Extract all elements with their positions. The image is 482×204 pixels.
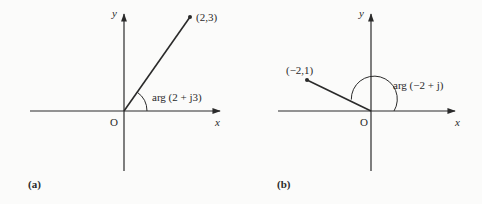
panel-a: y O x (2,3) arg (2 + j3) (a): [28, 7, 220, 191]
origin-label: O: [360, 116, 368, 128]
vector-line: [307, 80, 371, 111]
panel-caption: (b): [277, 178, 291, 191]
point-marker: [305, 78, 309, 82]
angle-label: arg (2 + j3): [152, 91, 202, 104]
point-label: (2,3): [196, 11, 217, 24]
origin-label: O: [110, 116, 118, 128]
angle-label: arg (−2 + j): [393, 79, 444, 92]
panel-caption: (a): [28, 178, 41, 191]
point-marker: [188, 15, 192, 19]
y-axis-label: y: [358, 7, 364, 19]
panel-b: y O x (−2,1) arg (−2 + j) (b): [277, 7, 460, 191]
y-axis-label: y: [111, 7, 117, 19]
x-axis-label: x: [454, 116, 460, 128]
angle-arc: [351, 76, 397, 111]
angle-arc: [137, 92, 147, 111]
point-label: (−2,1): [286, 64, 314, 77]
x-axis-label: x: [214, 116, 220, 128]
argand-diagrams: y O x (2,3) arg (2 + j3) (a) y O x (−2,1…: [0, 0, 482, 204]
